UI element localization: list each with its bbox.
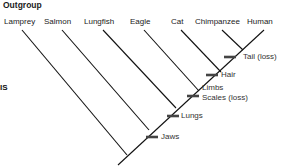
branch-salmon	[62, 30, 149, 130]
trait-limbs: Limbs	[202, 83, 223, 93]
branch-cat	[181, 30, 221, 72]
trait-hair: Hair	[221, 70, 236, 80]
branch-chimpanzee	[222, 30, 243, 50]
trait-scales-loss: Scales (loss)	[202, 93, 248, 103]
branch-lungfish	[103, 30, 176, 108]
trait-jaws: Jaws	[161, 132, 179, 142]
trait-lungs: Lungs	[181, 111, 203, 121]
trait-tail-loss: Tail (loss)	[243, 52, 277, 62]
cladogram-lines	[0, 0, 287, 168]
branch-lamprey	[22, 30, 127, 155]
